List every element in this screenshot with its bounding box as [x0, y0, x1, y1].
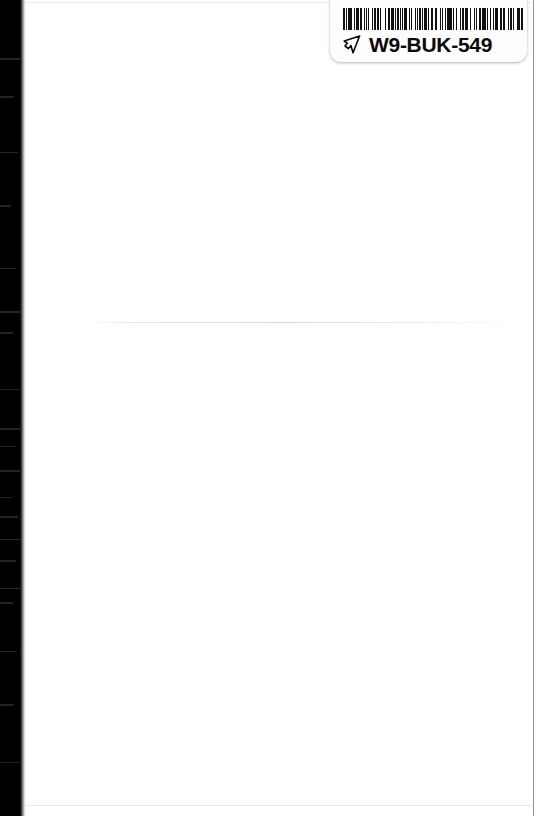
barcode-gap [523, 8, 524, 30]
scan-streak [0, 470, 20, 472]
scanner-binding-shadow [0, 0, 22, 816]
barcode-code-text: W9-BUK-549 [369, 34, 492, 55]
scan-streak [0, 560, 16, 562]
scanned-page: W9-BUK-549 [0, 0, 536, 816]
scan-streak [0, 588, 22, 589]
scan-streak [0, 428, 22, 430]
scan-streak [0, 389, 19, 390]
scan-streak [0, 311, 21, 313]
scan-streak [0, 602, 13, 604]
scan-streak [0, 762, 19, 763]
page-right-edge-line [533, 0, 534, 816]
scan-streak [0, 497, 12, 498]
scan-streak [0, 96, 14, 98]
page-crease-line [86, 322, 528, 323]
barcode-sticker: W9-BUK-549 [330, 0, 527, 62]
scan-streak [0, 205, 11, 207]
scan-streak [0, 704, 14, 706]
page-content-area [26, 0, 532, 816]
scan-streak [0, 651, 17, 652]
scanner-binding-shadow-feather [20, 0, 26, 816]
barcode-image [343, 8, 525, 30]
scan-streak [0, 332, 13, 334]
scan-streak [0, 152, 18, 153]
page-bottom-edge-line [26, 805, 532, 806]
scan-streak [0, 58, 20, 60]
pointing-hand-icon [338, 34, 362, 55]
scan-streak [0, 268, 16, 269]
barcode-code-row: W9-BUK-549 [338, 32, 523, 56]
scan-streak [0, 516, 18, 518]
scan-streak [0, 539, 21, 540]
scan-streak [0, 446, 15, 447]
